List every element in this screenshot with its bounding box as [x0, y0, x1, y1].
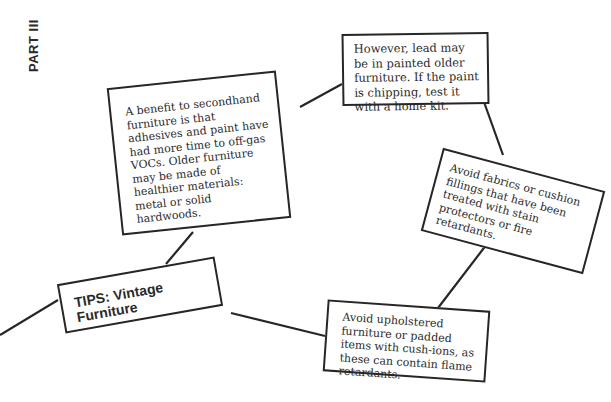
node-benefit: A benefit to secondhand furniture is tha… [107, 71, 292, 236]
node-upholstered: Avoid upholstered furniture or padded it… [323, 299, 491, 382]
node-lead: However, lead may be in painted older fu… [342, 32, 490, 106]
node-upholstered-text: Avoid upholstered furniture or padded it… [338, 310, 477, 387]
node-benefit-text: A benefit to secondhand furniture is tha… [125, 91, 279, 227]
node-lead-text: However, lead may be in painted older fu… [354, 40, 482, 114]
section-label: PART III [26, 19, 41, 72]
